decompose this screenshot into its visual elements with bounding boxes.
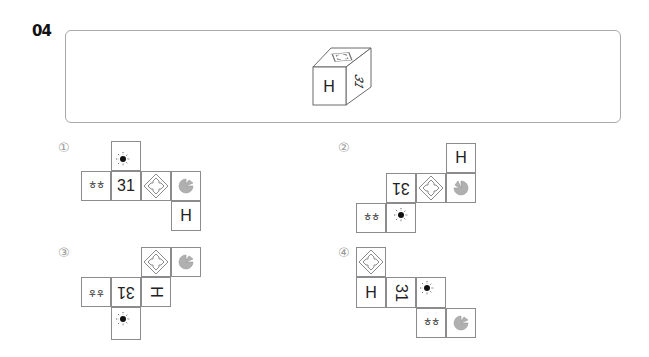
arrows-diamond-icon — [418, 175, 444, 201]
face-text: H — [148, 286, 164, 298]
net-cell — [171, 247, 201, 277]
net-cell — [171, 171, 201, 201]
arrows-diamond-icon — [143, 173, 169, 199]
pie-icon — [451, 313, 471, 333]
face-text: 31 — [117, 178, 135, 194]
net-cell: ㅎㅎ — [81, 277, 111, 307]
cube-figure: H 31 — [0, 0, 649, 130]
cube-front-text: H — [323, 78, 335, 95]
option-4-label[interactable]: ④ — [338, 246, 350, 259]
net-cell — [446, 308, 476, 338]
sun-icon — [115, 311, 131, 327]
net-cell: 31 — [111, 277, 141, 307]
net-cell: H — [356, 277, 386, 308]
net-cell: 31 — [111, 171, 141, 201]
net-cell: ㅎㅎ — [81, 171, 111, 201]
net-cell — [446, 173, 476, 203]
net-cell: 31 — [386, 277, 416, 308]
sun-icon — [393, 207, 409, 223]
hh-text: ㅎㅎ — [363, 213, 380, 223]
pie-icon — [451, 178, 471, 198]
hh-text: ㅎㅎ — [88, 287, 105, 297]
net-cell — [416, 277, 446, 308]
hh-text: ㅎㅎ — [88, 181, 105, 191]
sun-icon — [115, 151, 131, 167]
option-3-label[interactable]: ③ — [58, 246, 70, 259]
option-2-label[interactable]: ② — [338, 141, 350, 154]
net-cell: H — [446, 143, 476, 173]
net-cell — [111, 307, 141, 340]
pie-icon — [176, 176, 196, 196]
net-cell: H — [141, 277, 171, 307]
sun-icon — [419, 280, 435, 296]
face-text: 31 — [393, 284, 409, 302]
face-text: 31 — [392, 180, 410, 196]
face-text: H — [365, 285, 377, 301]
face-text: 31 — [117, 284, 135, 300]
net-cell: ㅎㅎ — [416, 308, 446, 338]
pie-icon — [176, 252, 196, 272]
face-text: H — [455, 150, 467, 166]
net-cell: ㅎㅎ — [356, 203, 386, 233]
net-cell — [356, 247, 386, 277]
net-cell — [141, 247, 171, 277]
option-1-label[interactable]: ① — [58, 141, 70, 154]
net-cell — [416, 173, 446, 203]
net-cell: H — [171, 201, 201, 231]
net-cell — [141, 171, 171, 201]
hh-text: ㅎㅎ — [423, 318, 440, 328]
arrows-diamond-icon — [143, 249, 169, 275]
net-cell — [111, 141, 141, 171]
net-cell: 31 — [386, 173, 416, 203]
net-cell — [386, 203, 416, 233]
arrows-diamond-icon — [358, 249, 384, 275]
face-text: H — [180, 208, 192, 224]
